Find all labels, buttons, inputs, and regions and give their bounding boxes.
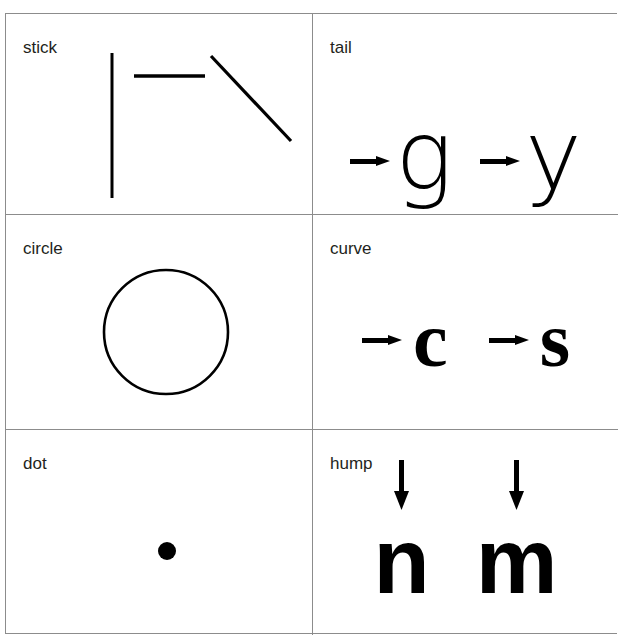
cell-label-curve: curve <box>330 239 372 259</box>
hump-glyph-pair: n m <box>373 459 557 607</box>
cell-label-dot: dot <box>23 454 47 474</box>
curve-item-c: c <box>361 301 448 379</box>
letter-y: y <box>525 108 582 204</box>
letter-c: c <box>413 301 448 379</box>
diagonal-stroke <box>211 56 291 141</box>
hump-glyph-row: n m <box>313 459 618 607</box>
letter-s: s <box>540 301 570 379</box>
curve-item-s: s <box>488 301 570 379</box>
arrow-right-icon <box>361 329 403 351</box>
curve-glyph-row: c s <box>313 301 618 379</box>
cell-curve: curve c s <box>313 215 618 429</box>
letter-n: n <box>373 515 429 607</box>
letter-m: m <box>476 515 558 607</box>
cell-stick: stick <box>6 14 312 214</box>
filled-dot-icon <box>158 542 176 560</box>
arrow-right-icon <box>349 150 391 172</box>
cell-hump: hump n m <box>313 430 618 635</box>
tail-item-g: g <box>349 108 453 178</box>
dot-shape <box>6 430 312 635</box>
hump-item-m: m <box>476 459 558 607</box>
arrow-down-icon <box>391 459 413 511</box>
cell-circle: circle <box>6 215 312 429</box>
cell-dot: dot <box>6 430 312 635</box>
arrow-down-icon <box>506 459 528 511</box>
letter-g: g <box>395 108 453 204</box>
hump-item-n: n <box>373 459 429 607</box>
cell-label-stick: stick <box>23 38 57 58</box>
circle-outline-icon <box>104 270 228 394</box>
cell-tail: tail g y <box>313 14 618 214</box>
arrow-right-icon <box>488 329 530 351</box>
arrow-right-icon <box>479 150 521 172</box>
curve-glyph-pair: c s <box>361 301 570 379</box>
tail-glyph-row: g y <box>313 108 618 178</box>
tail-glyph-pair: g y <box>349 108 581 178</box>
cell-label-tail: tail <box>330 38 352 58</box>
tail-item-y: y <box>479 108 582 178</box>
cell-label-circle: circle <box>23 239 63 259</box>
feature-grid: stick tail g <box>5 13 617 634</box>
